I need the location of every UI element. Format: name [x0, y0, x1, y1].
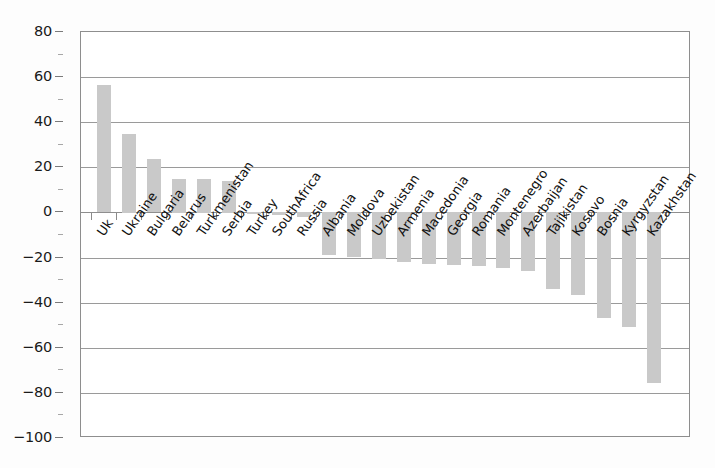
y-tick-label: −60 — [22, 340, 52, 355]
x-tick-mark — [91, 213, 92, 220]
y-tick-mark — [55, 302, 63, 303]
bar — [97, 85, 111, 212]
y-tick-mark — [55, 76, 63, 77]
x-tick-mark — [191, 213, 192, 220]
y-tick-label: −100 — [13, 430, 52, 445]
x-tick-mark — [416, 213, 417, 220]
y-tick-mark — [55, 121, 63, 122]
y-minor-tick-mark — [58, 369, 63, 370]
x-tick-mark — [591, 213, 592, 220]
y-tick-mark — [55, 437, 63, 438]
y-minor-tick-mark — [58, 54, 63, 55]
bar — [546, 212, 560, 289]
bar-chart: 806040200−20−40−60−80−100 UkUkraineBulga… — [0, 0, 715, 468]
y-minor-tick-mark — [58, 324, 63, 325]
bar — [397, 212, 411, 262]
bar — [247, 212, 261, 214]
bar — [571, 212, 585, 295]
bar — [447, 212, 461, 265]
y-tick-mark — [55, 392, 63, 393]
bar — [222, 181, 236, 213]
x-tick-mark — [216, 213, 217, 220]
x-tick-mark — [366, 213, 367, 220]
y-tick-mark — [55, 31, 63, 32]
plot-area — [80, 31, 690, 437]
bar — [272, 212, 286, 215]
x-tick-mark — [666, 213, 667, 220]
bar — [122, 134, 136, 213]
x-tick-mark — [491, 213, 492, 220]
bar — [347, 212, 361, 257]
y-tick-mark — [55, 257, 63, 258]
x-tick-mark — [116, 213, 117, 220]
x-tick-mark — [441, 213, 442, 220]
x-tick-mark — [266, 213, 267, 220]
x-tick-mark — [241, 213, 242, 220]
y-minor-tick-mark — [58, 189, 63, 190]
x-tick-mark — [391, 213, 392, 220]
bar — [147, 159, 161, 212]
y-minor-tick-mark — [58, 144, 63, 145]
bar — [372, 212, 386, 259]
y-tick-label: 40 — [34, 114, 52, 129]
y-tick-mark — [55, 347, 63, 348]
bar — [597, 212, 611, 318]
y-minor-tick-mark — [58, 414, 63, 415]
bar — [297, 212, 311, 217]
bar — [322, 212, 336, 255]
x-tick-mark — [291, 213, 292, 220]
y-tick-label: 20 — [34, 159, 52, 174]
y-minor-tick-mark — [58, 99, 63, 100]
x-tick-mark — [516, 213, 517, 220]
y-minor-tick-mark — [58, 279, 63, 280]
y-tick-label: −80 — [22, 385, 52, 400]
x-tick-mark — [141, 213, 142, 220]
bar — [172, 179, 186, 213]
y-tick-label: 0 — [43, 204, 52, 219]
bar — [197, 179, 211, 213]
y-tick-mark — [55, 166, 63, 167]
bar — [521, 212, 535, 271]
bar — [472, 212, 486, 266]
y-tick-label: −20 — [22, 249, 52, 264]
y-tick-mark — [55, 211, 63, 212]
x-tick-mark — [616, 213, 617, 220]
bar — [496, 212, 510, 268]
y-tick-label: −40 — [22, 294, 52, 309]
x-tick-mark — [466, 213, 467, 220]
x-tick-mark — [166, 213, 167, 220]
bars-layer — [81, 32, 689, 436]
y-minor-tick-mark — [58, 234, 63, 235]
bar — [622, 212, 636, 327]
x-tick-mark — [541, 213, 542, 220]
y-axis: 806040200−20−40−60−80−100 — [0, 0, 80, 468]
bar — [647, 212, 661, 383]
x-tick-mark — [566, 213, 567, 220]
y-tick-label: 60 — [34, 69, 52, 84]
x-tick-mark — [341, 213, 342, 220]
bar — [422, 212, 436, 264]
x-tick-mark — [641, 213, 642, 220]
y-tick-label: 80 — [34, 24, 52, 39]
x-tick-mark — [316, 213, 317, 220]
